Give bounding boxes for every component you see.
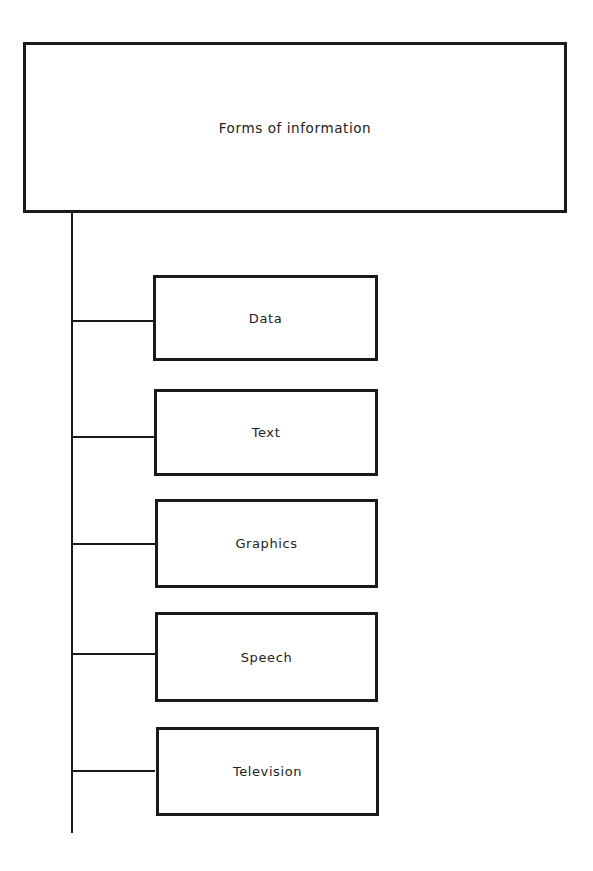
branch-connector-text [72,436,155,438]
trunk-connector [71,212,73,833]
child-node-label: Television [233,764,302,779]
child-node-text: Text [154,389,378,476]
child-node-speech: Speech [155,612,378,702]
child-node-label: Text [252,425,281,440]
child-node-television: Television [156,727,379,816]
branch-connector-speech [72,653,155,655]
root-node-label: Forms of information [219,120,372,136]
branch-connector-graphics [72,543,155,545]
branch-connector-data [72,320,155,322]
root-node: Forms of information [23,42,567,213]
child-node-graphics: Graphics [155,499,378,588]
branch-connector-television [72,770,155,772]
child-node-label: Graphics [235,536,297,551]
child-node-label: Speech [241,650,293,665]
child-node-label: Data [249,311,282,326]
child-node-data: Data [153,275,378,361]
